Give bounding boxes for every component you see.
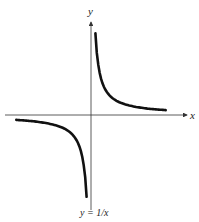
curve-negative-branch [16,120,86,197]
y-axis-label: y [87,5,93,17]
hyperbola-plot: y x y = 1/x [0,0,199,222]
curve-positive-branch [95,33,165,110]
x-axis-label: x [189,109,195,121]
chart-caption: y = 1/x [79,207,109,218]
